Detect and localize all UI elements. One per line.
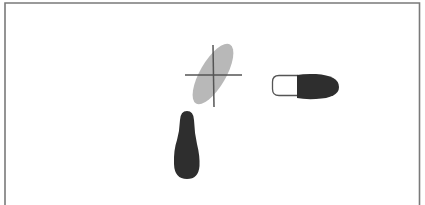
diagram-frame [5,3,420,205]
heel-outline [273,76,299,96]
ball-step-foot [273,74,340,99]
step-diagram [0,0,425,205]
previous-position-foot [185,38,242,110]
crosshair-vertical [213,45,214,107]
toe-footprint [297,74,339,99]
full-weight-footprint [174,111,200,179]
